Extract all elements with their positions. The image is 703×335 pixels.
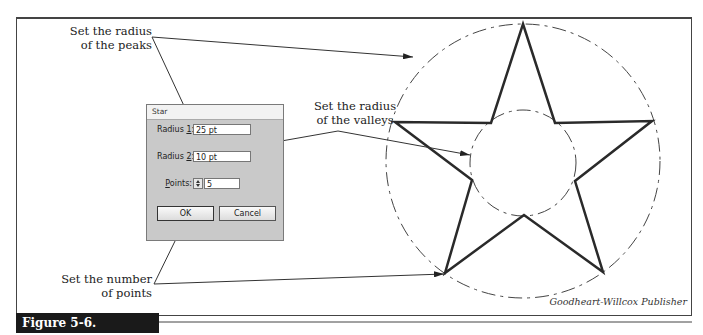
publisher-credit: Goodheart-Willcox Publisher <box>549 296 687 307</box>
points-label: Points: <box>157 179 192 188</box>
callout-points: Set the number of points <box>50 272 152 300</box>
points-input[interactable]: 5 <box>204 178 240 189</box>
dialog-title: Star <box>147 105 283 120</box>
radius2-label: Radius 2: <box>157 152 192 161</box>
cancel-button[interactable]: Cancel <box>219 206 276 221</box>
radius1-row: Radius 1: 25 pt <box>157 124 251 135</box>
radius1-label: Radius 1: <box>157 125 192 134</box>
inner-radius-circle <box>470 110 576 216</box>
radius2-input[interactable]: 10 pt <box>193 151 251 162</box>
ok-button[interactable]: OK <box>157 206 214 221</box>
points-spinner-icon[interactable] <box>193 178 203 189</box>
callout-valleys: Set the radius of the valleys <box>300 99 410 127</box>
figure-label: Figure 5-6. <box>16 313 159 333</box>
points-row: Points: 5 <box>157 178 240 189</box>
radius2-row: Radius 2: 10 pt <box>157 151 251 162</box>
outer-radius-circle <box>386 24 660 298</box>
callout-peaks: Set the radius of the peaks <box>60 24 152 52</box>
star-dialog: Star Radius 1: 25 pt Radius 2: 10 pt Poi… <box>146 104 284 241</box>
radius1-input[interactable]: 25 pt <box>193 124 251 135</box>
